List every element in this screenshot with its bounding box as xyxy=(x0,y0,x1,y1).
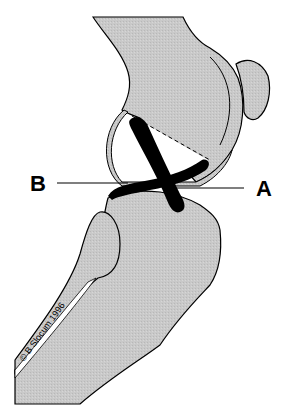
tibia-bone xyxy=(15,191,221,404)
label-b: B xyxy=(30,171,46,196)
knee-ligament-diagram: B A © B Slocum 1996 xyxy=(0,0,290,418)
label-a: A xyxy=(256,176,272,201)
